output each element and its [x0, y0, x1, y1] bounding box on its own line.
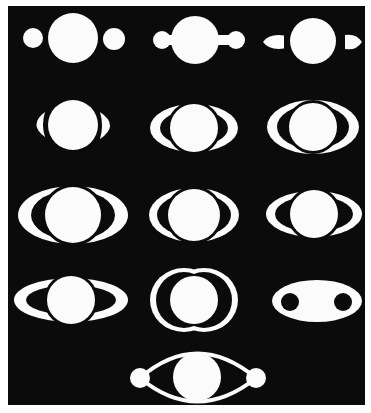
- saturn-figure-r4c2: [150, 268, 238, 332]
- saturn-figure-r4c3: [272, 280, 362, 322]
- plate-canvas: [0, 0, 371, 413]
- saturn-figure-r2c3: [267, 100, 359, 154]
- saturn-drawings-plate: [0, 0, 371, 413]
